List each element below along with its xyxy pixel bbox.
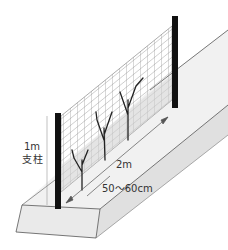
trellis-diagram (0, 0, 228, 250)
plant-spacing-label: 50～60cm (102, 184, 153, 194)
net-length-label: 2m (116, 160, 132, 170)
right-post (172, 16, 178, 108)
post-height-label: 1m (24, 142, 40, 152)
left-post (55, 113, 61, 209)
post-name-label: 支柱 (22, 155, 44, 165)
